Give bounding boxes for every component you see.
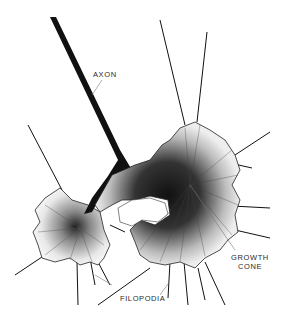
label-growth-cone: GROWTH CONE [228, 253, 272, 271]
label-filopodia: FILOPODIA [120, 294, 165, 303]
label-growth-cone-line2: CONE [228, 262, 272, 271]
label-axon: AXON [93, 70, 117, 79]
label-growth-cone-line1: GROWTH [228, 253, 272, 262]
